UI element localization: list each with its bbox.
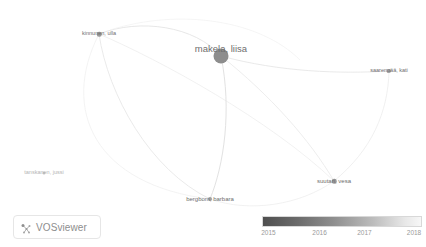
network-node-tanskanen-jussi[interactable] (43, 172, 46, 175)
network-node-bergbom-barbara[interactable] (208, 197, 212, 201)
legend-tick-2017: 2017 (357, 229, 371, 236)
edge-bergbom-suutari (210, 181, 334, 206)
edge-suutari-saarenpaa (334, 71, 389, 181)
network-graph-canvas[interactable] (0, 0, 426, 247)
legend-gradient-bar (262, 216, 422, 227)
network-node-kinnunen-ulla[interactable] (97, 32, 102, 37)
edge-layer (84, 19, 389, 206)
edge-kinnunen-makela (99, 26, 221, 56)
edge-outer-arc-left (84, 34, 210, 199)
node-marker[interactable] (43, 172, 46, 175)
network-node-suutari-vesa[interactable] (332, 179, 337, 184)
network-node-makela-liisa[interactable] (214, 49, 229, 64)
edge-outer-arc-top (110, 19, 300, 60)
score-color-legend: 2015 2016 2017 2018 (262, 216, 422, 241)
legend-tick-2018: 2018 (407, 229, 421, 236)
node-marker[interactable] (214, 49, 229, 64)
legend-tick-2016: 2016 (312, 229, 326, 236)
vosviewer-visualization[interactable]: makela, liisa kinnunen, ulla saarenpää, … (0, 0, 426, 247)
node-marker[interactable] (332, 179, 337, 184)
edge-makela-suutari (221, 56, 334, 181)
node-marker[interactable] (387, 69, 391, 73)
node-marker[interactable] (208, 197, 212, 201)
edge-makela-bergbom (210, 56, 226, 199)
vosviewer-network-icon (20, 221, 32, 233)
node-marker[interactable] (97, 32, 102, 37)
edge-kinnunen-bergbom (99, 34, 210, 199)
legend-tick-2015: 2015 (261, 229, 275, 236)
network-node-saarenpaa-kati[interactable] (387, 69, 391, 73)
vosviewer-logo-text: VOSviewer (36, 222, 87, 233)
legend-tick-labels: 2015 2016 2017 2018 (262, 229, 422, 241)
edge-makela-saarenpaa (221, 56, 389, 72)
vosviewer-logo[interactable]: VOSviewer (13, 215, 101, 239)
